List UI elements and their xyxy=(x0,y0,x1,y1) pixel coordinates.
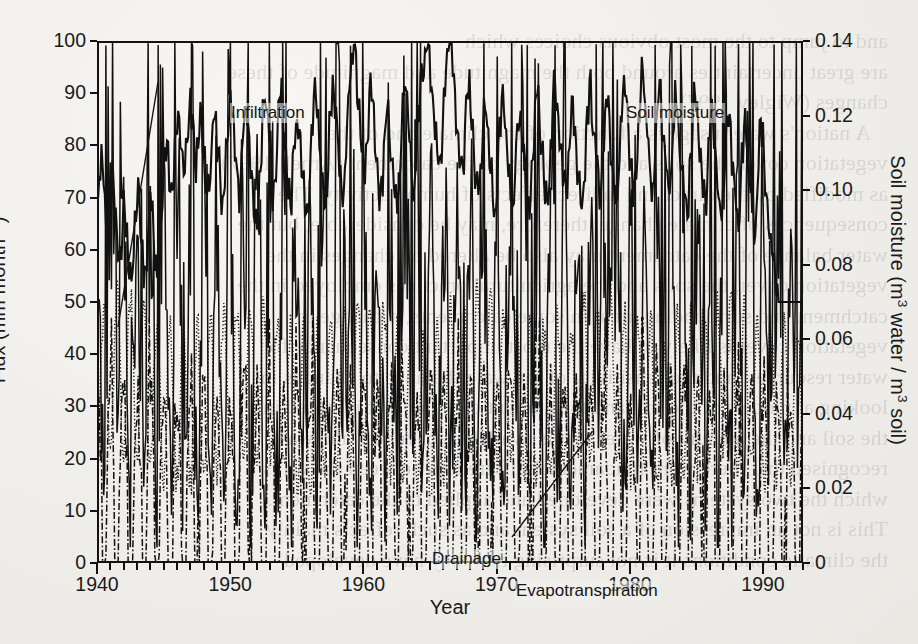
x-tick-minor xyxy=(722,563,724,570)
x-tick-minor xyxy=(123,563,125,570)
x-tick-minor xyxy=(522,563,524,570)
y-tick-left xyxy=(90,353,97,355)
y-tick-left xyxy=(90,144,97,146)
y-tick-left xyxy=(90,197,97,199)
y-tick-right xyxy=(803,487,810,489)
y-tick-label-left: 20 xyxy=(64,449,86,469)
x-tick-minor xyxy=(802,563,804,570)
y-tick-label-right: 0.12 xyxy=(815,106,853,126)
x-tick-label: 1950 xyxy=(209,575,252,595)
x-tick-minor xyxy=(562,563,564,570)
x-tick-minor xyxy=(416,563,418,570)
x-tick-minor xyxy=(642,563,644,570)
x-tick-minor xyxy=(389,563,391,570)
x-tick-minor xyxy=(549,563,551,570)
y-tick-label-right: 0.10 xyxy=(815,180,853,200)
x-tick-minor xyxy=(735,563,737,570)
annotation-evapotranspiration: Evapotranspiration xyxy=(515,581,659,601)
y-tick-label-left: 100 xyxy=(53,31,86,51)
x-tick-label: 1940 xyxy=(75,575,118,595)
y-tick-right xyxy=(803,264,810,266)
x-tick-minor xyxy=(243,563,245,570)
x-tick-minor xyxy=(322,563,324,570)
y-tick-label-left: 30 xyxy=(64,397,86,417)
x-tick-minor xyxy=(602,563,604,570)
y-tick-label-left: 40 xyxy=(64,344,86,364)
y-tick-left xyxy=(90,405,97,407)
y-tick-right xyxy=(803,189,810,191)
y-tick-label-right: 0.06 xyxy=(815,330,853,350)
x-tick-minor xyxy=(589,563,591,570)
x-tick-minor xyxy=(109,563,111,570)
y-tick-label-left: 60 xyxy=(64,240,86,260)
y-tick-label-left: 0 xyxy=(75,553,86,573)
y-tick-label-right: 0.14 xyxy=(815,31,853,51)
x-tick-minor xyxy=(163,563,165,570)
x-tick-minor xyxy=(536,563,538,570)
x-tick-minor xyxy=(336,563,338,570)
x-tick-minor xyxy=(682,563,684,570)
x-tick-minor xyxy=(509,563,511,570)
annotation-soil-moisture: Soil moisture xyxy=(625,103,725,123)
y-axis-right-title-a: Soil moisture (m xyxy=(887,155,909,299)
y-axis-right-title-b: water / m xyxy=(887,307,909,395)
x-tick-minor xyxy=(176,563,178,570)
x-tick-minor xyxy=(576,563,578,570)
x-tick-minor xyxy=(149,563,151,570)
y-tick-label-left: 70 xyxy=(64,188,86,208)
plot-area: 0102030405060708090100 00.020.040.060.08… xyxy=(97,41,803,563)
y-tick-label-left: 10 xyxy=(64,501,86,521)
x-tick-label: 1990 xyxy=(741,575,784,595)
x-tick-minor xyxy=(709,563,711,570)
y-tick-label-left: 50 xyxy=(64,292,86,312)
y-tick-left xyxy=(90,301,97,303)
x-tick-minor xyxy=(349,563,351,570)
x-tick-minor xyxy=(376,563,378,570)
x-tick-minor xyxy=(402,563,404,570)
y-axis-left-title-tail: ) xyxy=(0,217,9,224)
x-tick-minor xyxy=(269,563,271,570)
x-tick-minor xyxy=(616,563,618,570)
figure-canvas: 0102030405060708090100 00.020.040.060.08… xyxy=(0,0,918,644)
x-tick-minor xyxy=(282,563,284,570)
x-axis-title: Year xyxy=(430,596,470,619)
x-tick-minor xyxy=(789,563,791,570)
x-tick-minor xyxy=(256,563,258,570)
x-tick-minor xyxy=(695,563,697,570)
y-axis-left-title-text: Flux (mm month xyxy=(0,239,9,383)
x-tick-minor xyxy=(216,563,218,570)
annotation-infiltration: Infiltration xyxy=(230,103,306,123)
y-tick-left xyxy=(90,458,97,460)
y-tick-right xyxy=(803,562,810,564)
x-tick-label: 1960 xyxy=(342,575,385,595)
x-tick-minor xyxy=(775,563,777,570)
y-tick-right xyxy=(803,40,810,42)
x-tick-minor xyxy=(136,563,138,570)
x-tick-minor xyxy=(296,563,298,570)
x-tick-minor xyxy=(309,563,311,570)
annotation-drainage: Drainage xyxy=(431,549,502,569)
x-tick-minor xyxy=(669,563,671,570)
y-tick-label-right: 0 xyxy=(815,553,826,573)
y-tick-left xyxy=(90,92,97,94)
y-tick-right xyxy=(803,413,810,415)
x-tick-minor xyxy=(203,563,205,570)
y-tick-left xyxy=(90,510,97,512)
y-tick-right xyxy=(803,338,810,340)
y-tick-left xyxy=(90,249,97,251)
x-tick-label: 1970 xyxy=(475,575,518,595)
y-tick-label-right: 0.08 xyxy=(815,255,853,275)
y-axis-right-title: Soil moisture (m3 water / m3 soil) xyxy=(886,155,911,445)
y-axis-right-title-c: soil) xyxy=(887,403,909,445)
x-tick-minor xyxy=(655,563,657,570)
y-axis-left-title-sup: −1 xyxy=(0,223,1,239)
x-tick-minor xyxy=(749,563,751,570)
y-axis-right-title-sup1: 3 xyxy=(895,300,910,308)
y-tick-left xyxy=(90,40,97,42)
y-tick-label-right: 0.04 xyxy=(815,404,853,424)
x-tick-minor xyxy=(189,563,191,570)
y-tick-label-left: 80 xyxy=(64,136,86,156)
y-tick-label-left: 90 xyxy=(64,83,86,103)
y-tick-right xyxy=(803,115,810,117)
y-tick-label-right: 0.02 xyxy=(815,479,853,499)
